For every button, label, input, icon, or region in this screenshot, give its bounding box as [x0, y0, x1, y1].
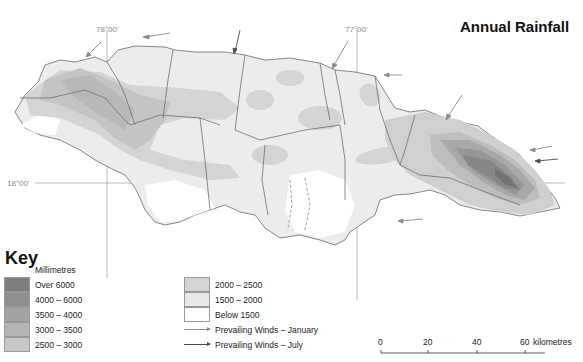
- legend-item: 2000 – 2500: [184, 277, 318, 292]
- legend-label: 4000 – 6000: [35, 295, 82, 305]
- legend-item: Below 1500: [184, 307, 318, 322]
- lon-label-77: 77°00': [345, 25, 368, 34]
- legend-column-2: 2000 – 2500 1500 – 2000 Below 1500 Preva…: [184, 277, 318, 352]
- key-unit: Millimetres: [35, 265, 76, 275]
- legend-label: 2500 – 3000: [35, 340, 82, 350]
- swatch-2500-3000: [4, 337, 30, 352]
- scale-bar: [381, 350, 545, 353]
- scale-tick-40: 40: [472, 337, 481, 347]
- swatch-3000-3500: [4, 322, 30, 337]
- legend-label: 2000 – 2500: [215, 280, 262, 290]
- scale-unit: kilometres: [533, 337, 572, 347]
- legend-item: 2500 – 3000: [4, 337, 82, 352]
- legend-wind-january: Prevailing Winds – January: [184, 322, 318, 337]
- legend-item: Over 6000: [4, 277, 82, 292]
- legend-label: Below 1500: [215, 310, 259, 320]
- dry-zone-southcentral: [285, 170, 355, 238]
- legend-label: Prevailing Winds – July: [215, 340, 303, 350]
- legend-wind-july: Prevailing Winds – July: [184, 337, 318, 352]
- swatch-2000-2500: [184, 277, 210, 292]
- legend-item: 4000 – 6000: [4, 292, 82, 307]
- legend-column-1: Over 6000 4000 – 6000 3500 – 4000 3000 –…: [4, 277, 82, 352]
- swatch-over-6000: [4, 277, 30, 292]
- legend-label: 3500 – 4000: [35, 310, 82, 320]
- swatch-1500-2000: [184, 292, 210, 307]
- scale-tick-0: 0: [378, 337, 383, 347]
- swatch-below-1500: [184, 307, 210, 322]
- arrow-icon-july: [184, 344, 210, 345]
- legend-label: Prevailing Winds – January: [215, 325, 318, 335]
- lon-label-78: 78°00': [96, 25, 119, 34]
- rain-patch-south: [252, 145, 288, 165]
- rain-patch-mid: [246, 90, 274, 110]
- swatch-3500-4000: [4, 307, 30, 322]
- swatch-4000-6000: [4, 292, 30, 307]
- scale-tick-20: 20: [423, 337, 432, 347]
- map-title: Annual Rainfall: [460, 18, 569, 35]
- arrow-icon-january: [184, 329, 210, 330]
- legend-item: 1500 – 2000: [184, 292, 318, 307]
- legend-label: 1500 – 2000: [215, 295, 262, 305]
- lat-label-18: 18°00': [7, 179, 30, 188]
- rain-patch-center: [298, 106, 342, 130]
- scale-tick-60: 60: [520, 337, 529, 347]
- legend-label: Over 6000: [35, 280, 75, 290]
- rain-patch-north: [276, 70, 304, 86]
- legend-item: 3500 – 4000: [4, 307, 82, 322]
- key-title: Key: [5, 248, 38, 269]
- legend-item: 3000 – 3500: [4, 322, 82, 337]
- legend-label: 3000 – 3500: [35, 325, 82, 335]
